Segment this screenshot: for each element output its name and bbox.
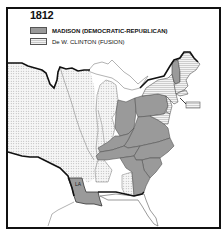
great-lakes-outline [88, 60, 148, 90]
gulf-coast-west [48, 202, 74, 226]
callout-box [186, 102, 200, 108]
election-map: LA [0, 0, 224, 230]
state-label-la: LA [75, 181, 82, 187]
callout-pointer [180, 98, 186, 104]
florida [100, 194, 158, 226]
state-pennsylvania [135, 94, 168, 117]
territories-east [95, 80, 118, 182]
